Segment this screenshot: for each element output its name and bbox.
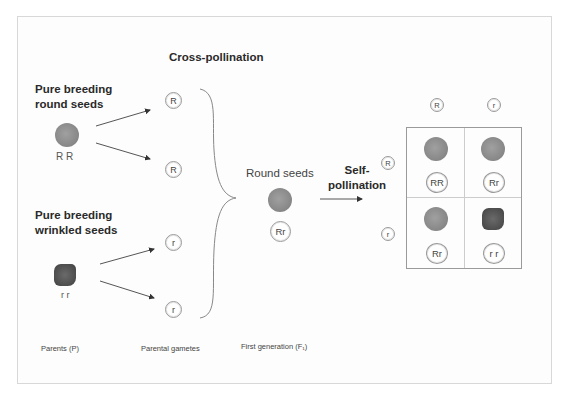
round-parent-genotype: R R: [56, 151, 73, 162]
punnett-col-header-R: R: [430, 98, 444, 112]
cell-rr-genotype: r r: [483, 243, 505, 264]
wrinkled-parent-label-line1: Pure breeding: [35, 208, 117, 223]
self-pollination-line2: pollination: [328, 178, 386, 193]
round-parent-label-line1: Pure breeding: [35, 82, 112, 97]
cell-Rr-bottom-genotype: Rr: [426, 243, 448, 264]
cell-Rr-bottom-seed-icon: [424, 207, 448, 231]
cell-Rr-top-seed-icon: [481, 137, 505, 161]
cell-rr-wrinkled-seed-icon: [482, 208, 504, 230]
wrinkled-seed-icon: [54, 264, 76, 286]
round-parent-label-line2: round seeds: [35, 97, 112, 112]
gamete-R-2: R: [165, 161, 182, 178]
cell-RR-genotype: RR: [426, 172, 448, 193]
f1-label: Round seeds: [246, 166, 314, 181]
label-first-generation: First generation (F₁): [241, 342, 307, 351]
wrinkled-parent-label: Pure breeding wrinkled seeds: [35, 208, 117, 238]
label-parents: Parents (P): [41, 344, 79, 353]
gamete-r-2: r: [165, 301, 182, 318]
self-pollination-line1: Self-: [328, 163, 386, 178]
gamete-r-1: r: [165, 234, 182, 251]
punnett-hdivider: [407, 197, 521, 198]
self-pollination-label: Self- pollination: [328, 163, 386, 193]
cell-RR-seed-icon: [424, 137, 448, 161]
punnett-row-header-r: r: [381, 227, 395, 241]
label-parental-gametes: Parental gametes: [141, 344, 200, 353]
punnett-vdivider: [464, 128, 465, 268]
f1-round-seed-icon: [268, 188, 292, 212]
punnett-row-header-R: R: [381, 156, 395, 170]
punnett-col-header-r: r: [487, 98, 501, 112]
wrinkled-parent-label-line2: wrinkled seeds: [35, 223, 117, 238]
f1-genotype: Rr: [270, 221, 291, 242]
title-cross-pollination: Cross-pollination: [169, 50, 264, 65]
wrinkled-parent-genotype: r r: [61, 290, 70, 300]
gamete-R-1: R: [165, 92, 182, 109]
round-seed-icon: [55, 123, 79, 147]
cell-Rr-top-genotype: Rr: [483, 172, 505, 193]
round-parent-label: Pure breeding round seeds: [35, 82, 112, 112]
